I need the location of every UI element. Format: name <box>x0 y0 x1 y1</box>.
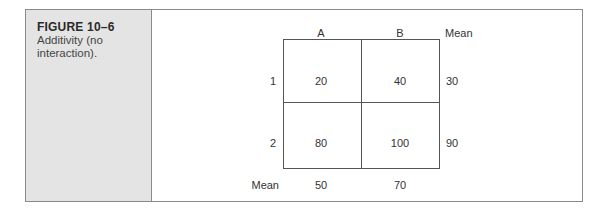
column-header-a: A <box>311 27 331 39</box>
row-mean-2: 90 <box>446 137 458 149</box>
figure-caption: Additivity (no interaction). <box>37 34 147 60</box>
cell-2b: 100 <box>385 137 415 149</box>
column-mean-label: Mean <box>245 179 279 191</box>
row-mean-header: Mean <box>445 27 473 39</box>
column-mean-a: 50 <box>306 179 336 191</box>
grid-vertical-divider <box>361 40 362 168</box>
figure-label: FIGURE 10–6 <box>37 20 115 34</box>
column-header-b: B <box>390 27 410 39</box>
figure-sidebar: FIGURE 10–6 Additivity (no interaction). <box>26 10 152 201</box>
figure-frame: FIGURE 10–6 Additivity (no interaction).… <box>25 9 583 202</box>
cell-2a: 80 <box>306 137 336 149</box>
column-mean-b: 70 <box>385 179 415 191</box>
two-by-two-grid <box>283 39 440 169</box>
row-mean-1: 30 <box>446 75 458 87</box>
grid-horizontal-divider <box>284 102 439 103</box>
row-label-1: 1 <box>266 75 276 87</box>
cell-1a: 20 <box>306 75 336 87</box>
row-label-2: 2 <box>266 137 276 149</box>
cell-1b: 40 <box>385 75 415 87</box>
